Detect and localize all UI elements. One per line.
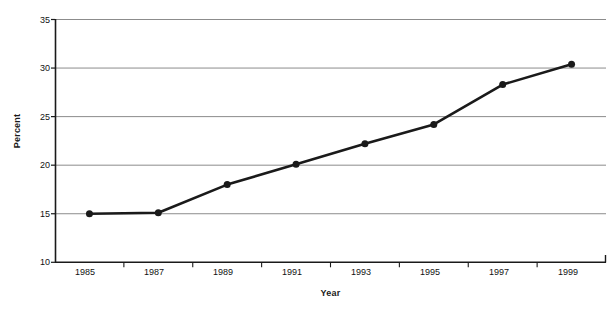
data-point-1999 <box>568 61 575 68</box>
data-point-1995 <box>430 121 437 128</box>
y-axis-ticks <box>51 20 55 263</box>
data-point-markers <box>86 61 575 218</box>
data-point-1991 <box>293 161 300 168</box>
gridlines <box>55 20 606 214</box>
data-point-1993 <box>361 140 368 147</box>
axis-lines <box>55 19 606 263</box>
plot-area <box>0 0 616 310</box>
data-point-1985 <box>86 210 93 217</box>
data-series-line <box>89 64 571 214</box>
data-point-1987 <box>155 209 162 216</box>
line-chart: Percent 35 30 25 20 15 10 1985 1987 1989… <box>0 0 616 310</box>
data-point-1997 <box>499 81 506 88</box>
data-point-1989 <box>224 181 231 188</box>
